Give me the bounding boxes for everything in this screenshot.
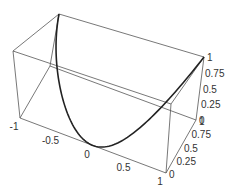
curve-line [56,14,204,147]
data-curve [56,14,204,147]
box-edge [13,51,171,104]
x-tick-label: -0.5 [42,135,60,146]
x-axis-tick-labels: -1-0.500.51 [10,121,164,187]
x-tick-label: 0.5 [117,162,131,173]
z-tick-label: 0.5 [203,84,217,95]
z-tick-label: 0.75 [205,68,225,79]
y-tick-label: 0 [169,169,175,180]
y-tick-label: 0.5 [184,143,198,154]
y-axis-tick-labels: 00.250.50.751 [169,116,211,180]
box-edge [59,14,204,57]
box-edge [13,51,20,118]
x-tick-label: -1 [10,121,19,132]
x-tick-label: 1 [157,176,163,187]
box-edge [166,104,171,173]
box-edge [20,66,50,118]
y-tick-label: 0.25 [177,156,197,167]
box-edge [13,14,59,51]
x-tick-label: 0 [84,149,90,160]
z-tick-label: 1 [207,52,213,63]
y-tick-label: 0.75 [192,129,212,140]
z-tick-label: 0 [199,115,205,126]
bounding-box [13,14,204,173]
z-tick-label: 0.25 [201,99,221,110]
3d-line-plot: -1-0.500.51 00.250.50.751 00.250.50.751 [0,0,232,192]
